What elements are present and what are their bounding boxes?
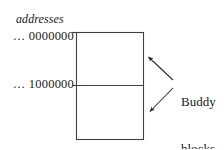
lower-arrow: [150, 88, 173, 112]
buddy-blocks-annotation: Buddy blocks: [181, 63, 216, 149]
buddy-blocks-annotation-line-2: blocks: [181, 141, 216, 150]
upper-arrow: [149, 57, 174, 80]
buddy-blocks-figure: addresses … 0000000 … 1000000 Buddy blo: [0, 0, 224, 149]
buddy-blocks-annotation-line-1: Buddy: [181, 94, 216, 110]
